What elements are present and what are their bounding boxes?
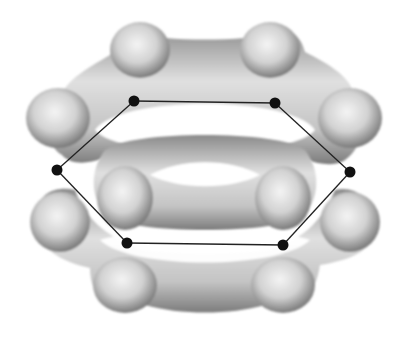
atom-c6 — [52, 165, 63, 176]
atom-c4 — [278, 240, 289, 251]
orbital-svg — [0, 0, 406, 340]
atom-c1 — [129, 96, 140, 107]
atom-c3 — [345, 167, 356, 178]
atom-c5 — [122, 238, 133, 249]
benzene-orbital-diagram — [0, 0, 406, 340]
inner-cloud-band — [94, 135, 317, 230]
atom-c2 — [270, 98, 281, 109]
